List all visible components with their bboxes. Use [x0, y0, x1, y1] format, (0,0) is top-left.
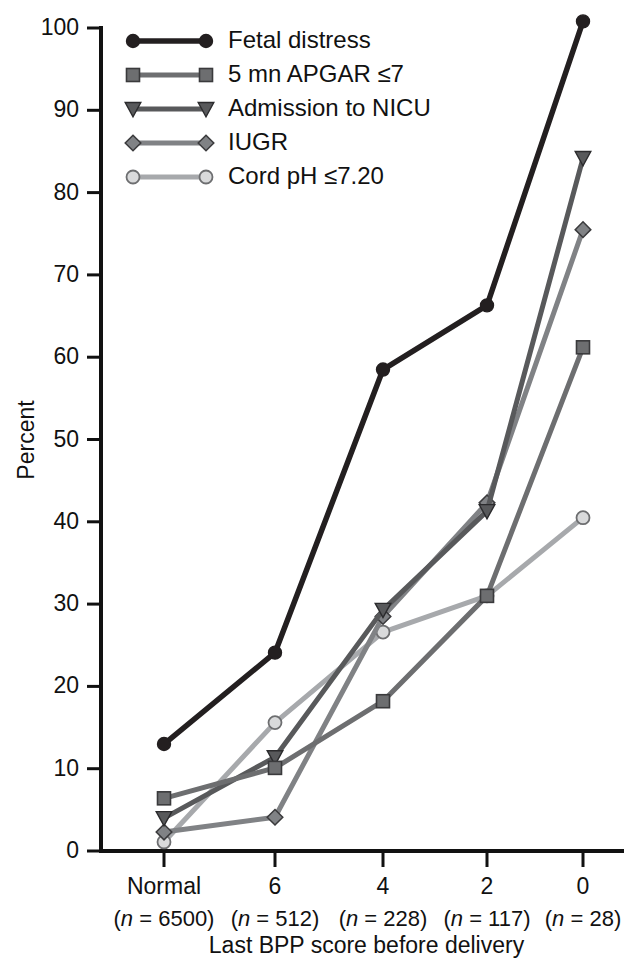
x-tick-sublabel: (n = 28): [545, 906, 621, 931]
data-point: [269, 646, 282, 659]
legend-marker-end: [200, 35, 213, 48]
legend-marker-start: [125, 135, 141, 151]
data-point: [158, 792, 171, 805]
legend-marker-start: [127, 171, 140, 184]
x-tick-label: Normal: [127, 873, 201, 899]
series-line: [164, 158, 583, 818]
y-tick-label: 70: [53, 261, 79, 287]
data-point: [577, 15, 590, 28]
y-tick-label: 0: [66, 837, 79, 863]
legend-item-fetal-distress: Fetal distress: [127, 26, 371, 53]
y-tick-label: 50: [53, 426, 79, 452]
data-point: [158, 738, 171, 751]
legend-item-cord-ph-7-20: Cord pH ≤7.20: [127, 162, 384, 189]
y-tick-label: 40: [53, 508, 79, 534]
data-point: [269, 716, 282, 729]
data-point: [575, 152, 591, 166]
data-point: [156, 812, 172, 826]
y-tick-label: 20: [53, 672, 79, 698]
data-series-group: [156, 15, 591, 849]
series-line: [164, 230, 583, 832]
y-tick-label: 10: [53, 755, 79, 781]
legend-marker-end: [198, 135, 214, 151]
legend-label: 5 mn APGAR ≤7: [228, 60, 404, 87]
x-tick-label: 2: [481, 873, 494, 899]
x-tick-sublabel: (n = 117): [443, 906, 530, 931]
legend-marker-start: [127, 35, 140, 48]
series-admission-to-nicu: [156, 152, 591, 826]
series-cord-ph-7-20: [158, 511, 590, 848]
data-point: [377, 695, 390, 708]
data-point: [481, 299, 494, 312]
chart-legend: Fetal distress5 mn APGAR ≤7Admission to …: [125, 26, 431, 189]
x-tick-sublabel: (n = 228): [339, 906, 428, 931]
legend-marker-end: [200, 171, 213, 184]
series-5-mn-apgar-7: [158, 341, 590, 805]
y-axis: 0102030405060708090100: [41, 14, 101, 863]
data-point: [577, 341, 590, 354]
x-tick-label: 4: [377, 873, 390, 899]
y-tick-label: 80: [53, 179, 79, 205]
legend-marker-start: [127, 69, 140, 82]
x-axis: Normal(n = 6500)6(n = 512)4(n = 228)2(n …: [101, 851, 622, 931]
line-chart: 0102030405060708090100 Normal(n = 6500)6…: [0, 0, 638, 975]
legend-label: Cord pH ≤7.20: [228, 162, 384, 189]
legend-item-iugr: IUGR: [125, 128, 288, 155]
x-tick-sublabel: (n = 512): [231, 906, 320, 931]
legend-label: Fetal distress: [228, 26, 371, 53]
legend-item-admission-to-nicu: Admission to NICU: [125, 94, 431, 121]
data-point: [577, 511, 590, 524]
y-tick-label: 90: [53, 96, 79, 122]
x-tick-sublabel: (n = 6500): [114, 906, 215, 931]
x-axis-title: Last BPP score before delivery: [209, 932, 525, 958]
legend-label: IUGR: [228, 128, 288, 155]
y-axis-title: Percent: [13, 400, 39, 480]
data-point: [481, 589, 494, 602]
data-point: [377, 363, 390, 376]
series-line: [164, 518, 583, 842]
data-point: [269, 761, 282, 774]
legend-label: Admission to NICU: [228, 94, 431, 121]
y-tick-label: 30: [53, 590, 79, 616]
legend-item-5-mn-apgar-7: 5 mn APGAR ≤7: [127, 60, 404, 87]
legend-marker-end: [200, 69, 213, 82]
x-tick-label: 0: [577, 873, 590, 899]
x-tick-label: 6: [269, 873, 282, 899]
chart-svg: 0102030405060708090100 Normal(n = 6500)6…: [0, 0, 638, 975]
y-tick-label: 60: [53, 343, 79, 369]
y-tick-label: 100: [41, 14, 79, 40]
series-iugr: [156, 222, 591, 840]
data-point: [575, 222, 591, 238]
